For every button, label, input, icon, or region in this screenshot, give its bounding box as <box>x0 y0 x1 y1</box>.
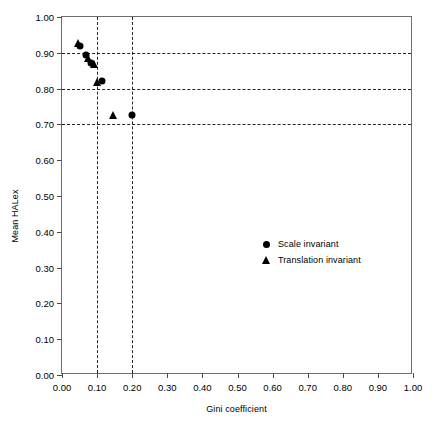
x-axis-tick <box>132 373 133 378</box>
y-axis-tick <box>57 124 62 125</box>
y-axis-tick <box>57 268 62 269</box>
x-axis-tick-label: 1.00 <box>404 382 423 393</box>
y-axis-tick <box>57 89 62 90</box>
data-point-translation-invariant <box>93 78 101 86</box>
y-axis-tick-label: 0.00 <box>14 370 54 381</box>
x-axis-tick-label: 0.20 <box>123 382 142 393</box>
x-axis-tick-label: 0.10 <box>88 382 107 393</box>
y-axis-tick-label: 0.30 <box>14 262 54 273</box>
x-axis-tick-label: 0.90 <box>369 382 388 393</box>
y-axis-tick-label: 0.80 <box>14 83 54 94</box>
gridline-vertical <box>132 17 133 373</box>
y-axis-tick-label: 0.60 <box>14 155 54 166</box>
data-point-translation-invariant <box>109 111 117 119</box>
x-axis-tick <box>273 373 274 378</box>
data-point-translation-invariant <box>74 39 82 47</box>
legend-marker-shape <box>262 256 270 264</box>
y-axis-tick <box>57 160 62 161</box>
x-axis-tick-label: 0.30 <box>158 382 177 393</box>
y-axis-tick-label: 0.10 <box>14 334 54 345</box>
gridline-horizontal <box>62 124 411 125</box>
x-axis-tick <box>167 373 168 378</box>
x-axis-tick <box>202 373 203 378</box>
x-axis-title: Gini coefficient <box>61 404 412 414</box>
scatter-chart-figure: Mean HALex 0.000.100.200.300.400.500.600… <box>0 0 435 432</box>
y-axis-tick <box>57 232 62 233</box>
y-axis-tick-label: 0.90 <box>14 47 54 58</box>
legend-marker-shape <box>263 241 270 248</box>
legend-item-label: Scale invariant <box>278 239 339 249</box>
legend-item-label: Translation invariant <box>278 255 361 265</box>
x-axis-tick <box>413 373 414 378</box>
x-axis-tick-label: 0.00 <box>53 382 72 393</box>
chart-legend: Scale invariantTranslation invariant <box>259 236 361 268</box>
y-axis-tick-label: 0.70 <box>14 119 54 130</box>
triangle-marker-icon <box>259 256 273 264</box>
legend-item: Scale invariant <box>259 236 361 252</box>
x-axis-tick <box>97 373 98 378</box>
y-axis-tick-label: 0.20 <box>14 298 54 309</box>
x-axis-tick-label: 0.60 <box>263 382 282 393</box>
gridline-vertical <box>97 17 98 373</box>
gridline-horizontal <box>62 53 411 54</box>
y-axis-tick <box>57 196 62 197</box>
y-axis-tick <box>57 303 62 304</box>
plot-area: 0.000.100.200.300.400.500.600.700.800.90… <box>61 16 412 374</box>
data-point-translation-invariant <box>90 60 98 68</box>
x-axis-tick-label: 0.70 <box>298 382 317 393</box>
y-axis-tick <box>57 53 62 54</box>
legend-item: Translation invariant <box>259 252 361 268</box>
x-axis-tick <box>378 373 379 378</box>
y-axis-tick <box>57 17 62 18</box>
y-axis-title: Mean HALex <box>22 0 44 432</box>
gridline-horizontal <box>62 89 411 90</box>
y-axis-tick-label: 0.50 <box>14 191 54 202</box>
y-axis-tick-label: 1.00 <box>14 12 54 23</box>
x-axis-tick <box>238 373 239 378</box>
x-axis-tick <box>343 373 344 378</box>
circle-marker-icon <box>259 241 273 248</box>
x-axis-tick-label: 0.80 <box>334 382 353 393</box>
data-point-scale-invariant <box>129 112 136 119</box>
x-axis-tick-label: 0.40 <box>193 382 212 393</box>
y-axis-tick-label: 0.40 <box>14 226 54 237</box>
x-axis-tick <box>62 373 63 378</box>
x-axis-tick-label: 0.50 <box>228 382 247 393</box>
x-axis-tick <box>308 373 309 378</box>
y-axis-tick <box>57 339 62 340</box>
